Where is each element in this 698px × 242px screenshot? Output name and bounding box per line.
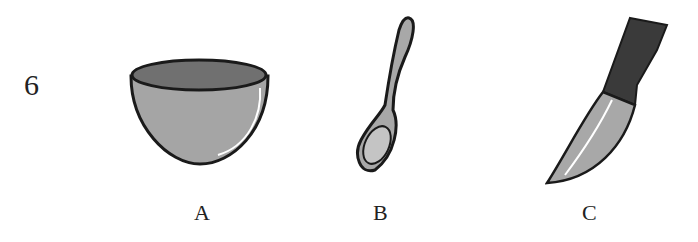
bowl-icon: [128, 56, 272, 168]
option-label-a: A: [194, 200, 210, 226]
question-number: 6: [24, 68, 39, 102]
option-label-b: B: [373, 200, 388, 226]
spoon-icon: [355, 15, 425, 175]
option-label-c: C: [582, 200, 597, 226]
knife-icon: [545, 15, 670, 185]
